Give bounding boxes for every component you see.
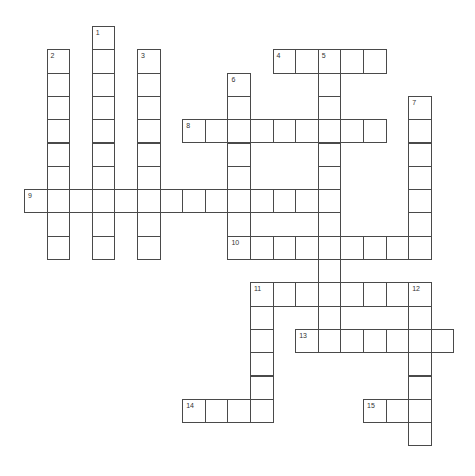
crossword-cell[interactable] bbox=[318, 236, 342, 260]
crossword-cell[interactable] bbox=[205, 189, 229, 213]
crossword-cell[interactable] bbox=[250, 329, 274, 353]
crossword-cell[interactable] bbox=[137, 189, 161, 213]
crossword-cell[interactable] bbox=[250, 376, 274, 400]
crossword-cell[interactable] bbox=[137, 73, 161, 97]
crossword-cell[interactable] bbox=[318, 119, 342, 143]
crossword-cell[interactable]: 10 bbox=[227, 236, 251, 260]
crossword-cell[interactable] bbox=[340, 236, 364, 260]
crossword-cell[interactable]: 2 bbox=[47, 49, 71, 73]
crossword-cell[interactable] bbox=[318, 212, 342, 236]
crossword-cell[interactable] bbox=[318, 96, 342, 120]
crossword-cell[interactable] bbox=[250, 189, 274, 213]
crossword-cell[interactable] bbox=[47, 166, 71, 190]
crossword-cell[interactable] bbox=[295, 236, 319, 260]
crossword-cell[interactable]: 13 bbox=[295, 329, 319, 353]
crossword-cell[interactable] bbox=[408, 422, 432, 446]
crossword-cell[interactable] bbox=[408, 143, 432, 167]
crossword-cell[interactable] bbox=[408, 329, 432, 353]
crossword-cell[interactable] bbox=[114, 189, 138, 213]
crossword-cell[interactable] bbox=[340, 329, 364, 353]
crossword-cell[interactable] bbox=[386, 282, 410, 306]
crossword-cell[interactable] bbox=[340, 49, 364, 73]
crossword-cell[interactable] bbox=[386, 399, 410, 423]
crossword-cell[interactable] bbox=[227, 399, 251, 423]
crossword-cell[interactable] bbox=[340, 282, 364, 306]
crossword-cell[interactable] bbox=[92, 189, 116, 213]
crossword-cell[interactable] bbox=[408, 376, 432, 400]
crossword-cell[interactable] bbox=[408, 119, 432, 143]
crossword-cell[interactable] bbox=[318, 282, 342, 306]
crossword-cell[interactable] bbox=[318, 73, 342, 97]
crossword-cell[interactable] bbox=[318, 259, 342, 283]
crossword-cell[interactable] bbox=[47, 96, 71, 120]
crossword-cell[interactable]: 3 bbox=[137, 49, 161, 73]
crossword-cell[interactable] bbox=[363, 49, 387, 73]
crossword-cell[interactable] bbox=[273, 119, 297, 143]
crossword-cell[interactable] bbox=[47, 143, 71, 167]
crossword-cell[interactable] bbox=[295, 49, 319, 73]
crossword-cell[interactable] bbox=[227, 212, 251, 236]
crossword-cell[interactable]: 5 bbox=[318, 49, 342, 73]
crossword-cell[interactable] bbox=[47, 212, 71, 236]
crossword-cell[interactable] bbox=[92, 73, 116, 97]
crossword-cell[interactable] bbox=[227, 189, 251, 213]
crossword-cell[interactable] bbox=[408, 212, 432, 236]
crossword-cell[interactable]: 9 bbox=[24, 189, 48, 213]
crossword-cell[interactable] bbox=[250, 119, 274, 143]
crossword-cell[interactable] bbox=[137, 212, 161, 236]
crossword-cell[interactable]: 7 bbox=[408, 96, 432, 120]
crossword-cell[interactable] bbox=[47, 236, 71, 260]
crossword-cell[interactable] bbox=[273, 236, 297, 260]
crossword-cell[interactable] bbox=[160, 189, 184, 213]
crossword-cell[interactable] bbox=[137, 143, 161, 167]
crossword-cell[interactable] bbox=[363, 329, 387, 353]
crossword-cell[interactable]: 4 bbox=[273, 49, 297, 73]
crossword-cell[interactable]: 8 bbox=[182, 119, 206, 143]
crossword-cell[interactable] bbox=[137, 119, 161, 143]
crossword-cell[interactable]: 11 bbox=[250, 282, 274, 306]
crossword-cell[interactable] bbox=[295, 189, 319, 213]
crossword-cell[interactable]: 6 bbox=[227, 73, 251, 97]
crossword-cell[interactable] bbox=[408, 306, 432, 330]
crossword-cell[interactable] bbox=[47, 119, 71, 143]
crossword-cell[interactable] bbox=[295, 282, 319, 306]
crossword-cell[interactable] bbox=[408, 166, 432, 190]
crossword-cell[interactable] bbox=[92, 119, 116, 143]
crossword-cell[interactable] bbox=[363, 119, 387, 143]
crossword-cell[interactable] bbox=[295, 119, 319, 143]
crossword-cell[interactable] bbox=[318, 143, 342, 167]
crossword-cell[interactable] bbox=[386, 236, 410, 260]
crossword-cell[interactable] bbox=[386, 329, 410, 353]
crossword-cell[interactable] bbox=[227, 166, 251, 190]
crossword-cell[interactable] bbox=[182, 189, 206, 213]
crossword-cell[interactable] bbox=[318, 306, 342, 330]
crossword-cell[interactable] bbox=[47, 73, 71, 97]
crossword-cell[interactable] bbox=[92, 166, 116, 190]
crossword-cell[interactable] bbox=[250, 352, 274, 376]
crossword-cell[interactable] bbox=[250, 306, 274, 330]
crossword-cell[interactable]: 1 bbox=[92, 26, 116, 50]
crossword-cell[interactable]: 14 bbox=[182, 399, 206, 423]
crossword-cell[interactable] bbox=[431, 329, 455, 353]
crossword-cell[interactable] bbox=[408, 189, 432, 213]
crossword-cell[interactable] bbox=[227, 143, 251, 167]
crossword-cell[interactable] bbox=[363, 236, 387, 260]
crossword-cell[interactable] bbox=[250, 399, 274, 423]
crossword-cell[interactable] bbox=[227, 96, 251, 120]
crossword-cell[interactable] bbox=[92, 49, 116, 73]
crossword-cell[interactable] bbox=[250, 236, 274, 260]
crossword-cell[interactable] bbox=[227, 119, 251, 143]
crossword-cell[interactable] bbox=[363, 282, 387, 306]
crossword-cell[interactable] bbox=[408, 399, 432, 423]
crossword-cell[interactable] bbox=[318, 166, 342, 190]
crossword-cell[interactable] bbox=[273, 189, 297, 213]
crossword-cell[interactable] bbox=[47, 189, 71, 213]
crossword-cell[interactable] bbox=[137, 96, 161, 120]
crossword-cell[interactable] bbox=[137, 236, 161, 260]
crossword-cell[interactable]: 12 bbox=[408, 282, 432, 306]
crossword-cell[interactable] bbox=[137, 166, 161, 190]
crossword-cell[interactable] bbox=[205, 399, 229, 423]
crossword-cell[interactable] bbox=[318, 329, 342, 353]
crossword-cell[interactable] bbox=[273, 282, 297, 306]
crossword-cell[interactable] bbox=[340, 119, 364, 143]
